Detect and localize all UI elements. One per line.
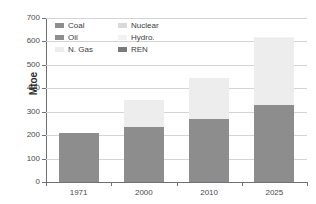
bar-segment-coal[interactable]	[189, 175, 229, 182]
legend-label: N. Gas	[68, 45, 93, 54]
bar-segment-oil[interactable]	[189, 119, 229, 175]
y-tick-label: 500	[14, 61, 40, 69]
y-tick-label-wrap: 100	[10, 155, 40, 163]
legend-column-right: NuclearHydro.REN	[118, 19, 180, 55]
legend-label: Oil	[68, 33, 78, 42]
y-tick-label: 100	[14, 155, 40, 163]
legend-item-hydro[interactable]: Hydro.	[118, 31, 180, 43]
y-tick-label-wrap: 600	[10, 37, 40, 45]
y-tick-label-wrap: 500	[10, 61, 40, 69]
legend-item-n-gas[interactable]: N. Gas	[55, 43, 117, 55]
x-tick-label-2010: 2010	[179, 188, 239, 197]
x-tick-mark	[177, 182, 178, 186]
legend-label: Nuclear	[131, 21, 159, 30]
bar-segment-n-gas[interactable]	[189, 78, 229, 118]
y-tick-label: 400	[14, 84, 40, 92]
legend-item-ren[interactable]: REN	[118, 43, 180, 55]
y-tick-label: 200	[14, 131, 40, 139]
legend-swatch-icon	[118, 23, 127, 28]
y-tick-label: 300	[14, 108, 40, 116]
y-tick-label-wrap: 200	[10, 131, 40, 139]
y-tick-label: 0	[14, 178, 40, 186]
y-tick-label: 700	[14, 14, 40, 22]
bar-segment-oil[interactable]	[124, 127, 164, 182]
x-tick-label-2000: 2000	[114, 188, 174, 197]
bar-segment-coal[interactable]	[254, 169, 294, 182]
x-tick-mark	[46, 182, 47, 186]
x-tick-label-2025: 2025	[244, 188, 304, 197]
legend-swatch-icon	[118, 47, 127, 52]
bar-segment-hydro[interactable]	[254, 37, 294, 38]
bar-group-2010[interactable]	[189, 18, 229, 182]
x-tick-mark	[307, 182, 308, 186]
x-tick-mark	[242, 182, 243, 186]
y-tick-label: 600	[14, 37, 40, 45]
bar-segment-n-gas[interactable]	[124, 100, 164, 127]
y-tick-label-wrap: 0	[10, 178, 40, 186]
legend-item-oil[interactable]: Oil	[55, 31, 117, 43]
legend-swatch-icon	[55, 47, 64, 52]
bar-group-2025[interactable]	[254, 18, 294, 182]
legend-column-left: CoalOilN. Gas	[55, 19, 117, 55]
legend-label: REN	[131, 45, 148, 54]
legend-label: Hydro.	[131, 33, 155, 42]
legend-label: Coal	[68, 21, 84, 30]
chart-legend: CoalOilN. Gas NuclearHydro.REN	[55, 19, 180, 57]
legend-swatch-icon	[118, 35, 127, 40]
bar-segment-oil[interactable]	[254, 105, 294, 169]
legend-swatch-icon	[55, 35, 64, 40]
y-tick-label-wrap: 700	[10, 14, 40, 22]
legend-item-coal[interactable]: Coal	[55, 19, 117, 31]
bar-segment-oil[interactable]	[59, 133, 99, 182]
x-tick-label-1971: 1971	[49, 188, 109, 197]
bar-segment-n-gas[interactable]	[254, 38, 294, 105]
x-tick-mark	[111, 182, 112, 186]
y-tick-label-wrap: 400	[10, 84, 40, 92]
chart-container: Mtoe 0100200300400500600700 197120002010…	[0, 0, 316, 204]
legend-item-nuclear[interactable]: Nuclear	[118, 19, 180, 31]
legend-swatch-icon	[55, 23, 64, 28]
y-tick-label-wrap: 300	[10, 108, 40, 116]
